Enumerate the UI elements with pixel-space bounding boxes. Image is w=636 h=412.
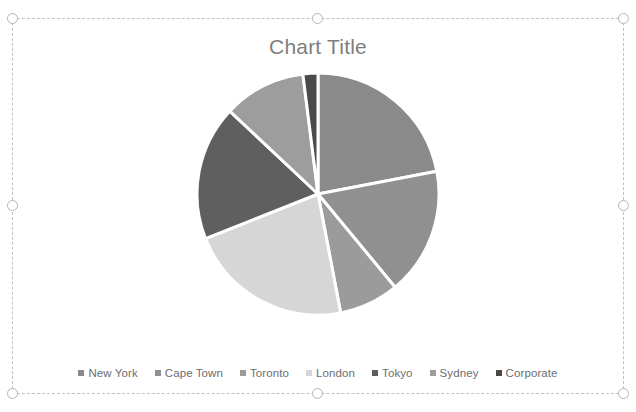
legend-item-label: New York	[88, 367, 137, 379]
legend-item-label: Tokyo	[382, 367, 413, 379]
legend-item[interactable]: Toronto	[240, 367, 289, 379]
resize-handle-top-center[interactable]	[312, 13, 323, 24]
legend-swatch-icon	[306, 370, 312, 376]
resize-handle-bottom-left[interactable]	[7, 388, 18, 399]
legend-swatch-icon	[496, 370, 502, 376]
legend-swatch-icon	[240, 370, 246, 376]
legend-item[interactable]: London	[306, 367, 355, 379]
resize-handle-middle-right[interactable]	[618, 200, 629, 211]
legend-swatch-icon	[155, 370, 161, 376]
legend-item-label: London	[316, 367, 355, 379]
resize-handle-top-left[interactable]	[7, 13, 18, 24]
pie-plot-area[interactable]	[13, 69, 623, 331]
legend-item[interactable]: Sydney	[430, 367, 479, 379]
legend-item[interactable]: New York	[78, 367, 137, 379]
resize-handle-middle-left[interactable]	[7, 200, 18, 211]
legend-item[interactable]: Corporate	[496, 367, 558, 379]
slide-canvas: Chart Title New YorkCape TownTorontoLond…	[0, 0, 636, 412]
legend-swatch-icon	[78, 370, 84, 376]
resize-handle-bottom-right[interactable]	[618, 388, 629, 399]
chart-legend[interactable]: New YorkCape TownTorontoLondonTokyoSydne…	[13, 367, 623, 379]
chart-object-selection-frame[interactable]: Chart Title New YorkCape TownTorontoLond…	[12, 18, 624, 394]
legend-item-label: Sydney	[440, 367, 479, 379]
legend-item-label: Corporate	[506, 367, 558, 379]
legend-swatch-icon	[430, 370, 436, 376]
legend-swatch-icon	[372, 370, 378, 376]
resize-handle-bottom-center[interactable]	[312, 388, 323, 399]
legend-item[interactable]: Tokyo	[372, 367, 413, 379]
chart-title[interactable]: Chart Title	[13, 35, 623, 59]
legend-item[interactable]: Cape Town	[155, 367, 223, 379]
chart-area[interactable]: Chart Title New YorkCape TownTorontoLond…	[13, 19, 623, 393]
resize-handle-top-right[interactable]	[618, 13, 629, 24]
pie-chart-graphic[interactable]	[193, 69, 443, 319]
legend-item-label: Cape Town	[165, 367, 223, 379]
legend-item-label: Toronto	[250, 367, 289, 379]
